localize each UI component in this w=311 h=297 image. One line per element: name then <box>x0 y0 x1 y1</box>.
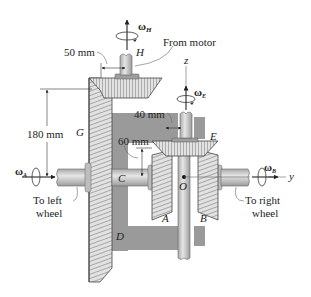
to-right-wheel-label-1: To right <box>245 194 280 206</box>
O-label: O <box>179 180 187 192</box>
z-axis-label: z <box>183 54 189 66</box>
H-label: H <box>135 46 145 58</box>
to-left-wheel-label-2: wheel <box>36 207 62 219</box>
to-left-wheel-leader <box>73 187 78 201</box>
to-right-wheel-leader <box>235 187 244 201</box>
omega-H-rotation-icon <box>116 20 138 50</box>
omega-A-label: ωA <box>15 165 27 178</box>
C-label: C <box>118 172 126 184</box>
omega-E-label: ωE <box>194 86 206 99</box>
omega-E-rotation-icon <box>177 86 195 110</box>
A-label: A <box>161 212 169 224</box>
D-label: D <box>115 230 124 242</box>
E-label: E <box>209 130 217 142</box>
B-label: B <box>200 212 207 224</box>
side-gear-B <box>198 150 218 220</box>
y-axis-label: y <box>288 170 294 182</box>
omega-H-label: ωH <box>138 20 152 34</box>
shaft-H <box>120 54 132 75</box>
side-gear-A <box>152 150 172 220</box>
differential-gear-diagram: ωH From motor 50 mm H z ωE 180 mm G 40 m… <box>0 0 311 297</box>
ring-gear-G <box>89 78 112 282</box>
from-motor-label: From motor <box>163 36 216 48</box>
dimension-180mm-label: 180 mm <box>27 128 64 140</box>
spider-shaft <box>178 150 190 260</box>
shaft-E <box>180 112 192 138</box>
to-left-wheel-label-1: To left <box>33 194 62 206</box>
dimension-40mm-label: 40 mm <box>134 108 165 120</box>
dimension-50mm-label: 50 mm <box>64 46 95 58</box>
dimension-60mm-label: 60 mm <box>118 135 149 147</box>
G-label: G <box>76 126 84 138</box>
omega-B-label: ωB <box>264 161 276 174</box>
to-right-wheel-label-2: wheel <box>252 207 278 219</box>
